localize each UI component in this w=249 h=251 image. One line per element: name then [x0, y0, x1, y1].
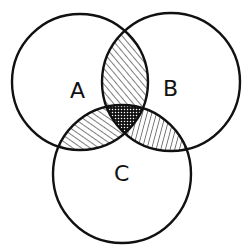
label-c: C [114, 161, 129, 186]
venn-diagram: A B C [0, 0, 249, 251]
label-a: A [70, 78, 85, 103]
label-b: B [163, 76, 178, 101]
